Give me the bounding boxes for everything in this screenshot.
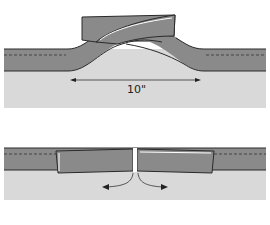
measurement-label: 10" xyxy=(127,83,146,96)
seam-gap xyxy=(133,148,137,172)
seam-allowance-left xyxy=(56,149,133,173)
bottom-panel xyxy=(4,148,266,200)
diagram-canvas xyxy=(0,0,270,225)
